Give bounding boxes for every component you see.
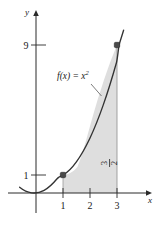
point-marker-1-1 — [60, 172, 65, 177]
shaded-area-region — [63, 45, 117, 193]
curve-equation-base: f(x) = x — [57, 71, 86, 82]
figure-area-under-parabola: y x 9 1 1 2 3 f(x) = x2 3 2 — [0, 0, 160, 225]
x-axis-label: x — [147, 195, 152, 205]
x-tick-label-1: 1 — [61, 200, 66, 211]
curve-label-leader-line — [91, 84, 102, 96]
curve-equation-exponent: 2 — [86, 69, 90, 76]
curve-equation-label: f(x) = x2 — [57, 69, 90, 82]
y-tick-label-9: 9 — [24, 40, 29, 51]
fraction-denominator: 2 — [109, 161, 119, 165]
plot-canvas: y x 9 1 1 2 3 f(x) = x2 3 2 — [0, 0, 160, 225]
y-axis-label: y — [24, 7, 29, 17]
fraction-numerator: 3 — [99, 161, 109, 165]
y-tick-label-1: 1 — [24, 170, 29, 181]
x-tick-label-2: 2 — [88, 200, 93, 211]
x-tick-label-3: 3 — [115, 200, 120, 211]
y-axis-arrowhead — [33, 10, 39, 16]
point-marker-3-9 — [114, 42, 119, 47]
